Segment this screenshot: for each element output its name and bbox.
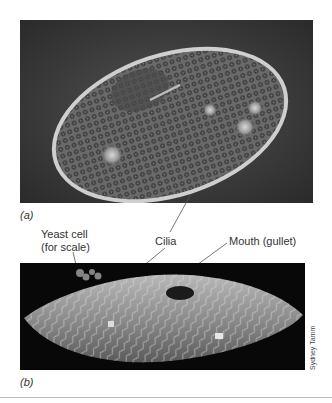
photo-credit: Sydney Tamm (309, 326, 316, 370)
callout-mouth-gullet: Mouth (gullet) (229, 235, 296, 248)
paramecium-light-image (20, 20, 313, 203)
bottom-divider (0, 397, 332, 398)
paramecium-sem-image (20, 263, 305, 370)
callout-yeast-cell: Yeast cell (for scale) (41, 228, 90, 254)
callout-yeast-line2: (for scale) (41, 241, 90, 254)
micrograph-a (20, 20, 313, 203)
callout-cilia: Cilia (155, 235, 176, 248)
callout-yeast-line1: Yeast cell (41, 228, 90, 241)
micrograph-b (20, 263, 305, 370)
panel-a-label: (a) (20, 209, 33, 221)
panel-b-label: (b) (20, 376, 33, 388)
